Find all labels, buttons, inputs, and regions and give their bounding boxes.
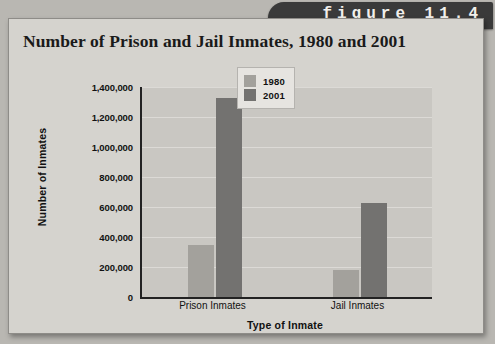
- bar-jail-inmates-2001: [361, 203, 387, 297]
- legend-swatch-2001: [244, 89, 256, 101]
- y-axis-tick-label: 200,000: [99, 262, 133, 273]
- x-axis-title: Type of Inmate: [140, 319, 430, 331]
- legend-label-1980: 1980: [263, 76, 285, 87]
- y-axis-title: Number of Inmates: [36, 102, 48, 252]
- y-axis-tick-label: 0: [128, 292, 133, 303]
- y-axis-tick-label: 400,000: [99, 232, 133, 243]
- figure-card: Number of Prison and Jail Inmates, 1980 …: [8, 18, 484, 334]
- legend-item-1980: 1980: [244, 75, 285, 87]
- chart-legend: 19802001: [237, 67, 295, 109]
- chart-title: Number of Prison and Jail Inmates, 1980 …: [23, 31, 406, 52]
- y-axis-tick-labels: 1,400,0001,200,0001,000,000800,000600,00…: [61, 87, 137, 297]
- bar-prison-inmates-1980: [188, 245, 214, 297]
- y-axis-tick-label: 1,400,000: [92, 82, 133, 93]
- y-axis-tick-label: 1,200,000: [92, 112, 133, 123]
- figure-root: figure 11.4 Number of Prison and Jail In…: [0, 0, 495, 344]
- bar-group: [287, 87, 432, 297]
- plot-area: [140, 87, 432, 299]
- y-axis-tick-label: 600,000: [99, 202, 133, 213]
- legend-swatch-1980: [244, 75, 256, 87]
- bar-jail-inmates-1980: [333, 270, 359, 297]
- x-axis-tick-label: Jail Inmates: [331, 300, 384, 311]
- y-axis-tick-label: 1,000,000: [92, 142, 133, 153]
- x-axis-tick-labels: Prison InmatesJail Inmates: [140, 300, 430, 316]
- legend-label-2001: 2001: [263, 90, 285, 101]
- chart-plot-wrapper: Number of Inmates 1,400,0001,200,0001,00…: [9, 59, 483, 333]
- bar-group: [142, 87, 287, 297]
- y-axis-tick-label: 800,000: [99, 172, 133, 183]
- legend-item-2001: 2001: [244, 89, 285, 101]
- bar-prison-inmates-2001: [216, 98, 242, 297]
- x-axis-tick-label: Prison Inmates: [179, 300, 246, 311]
